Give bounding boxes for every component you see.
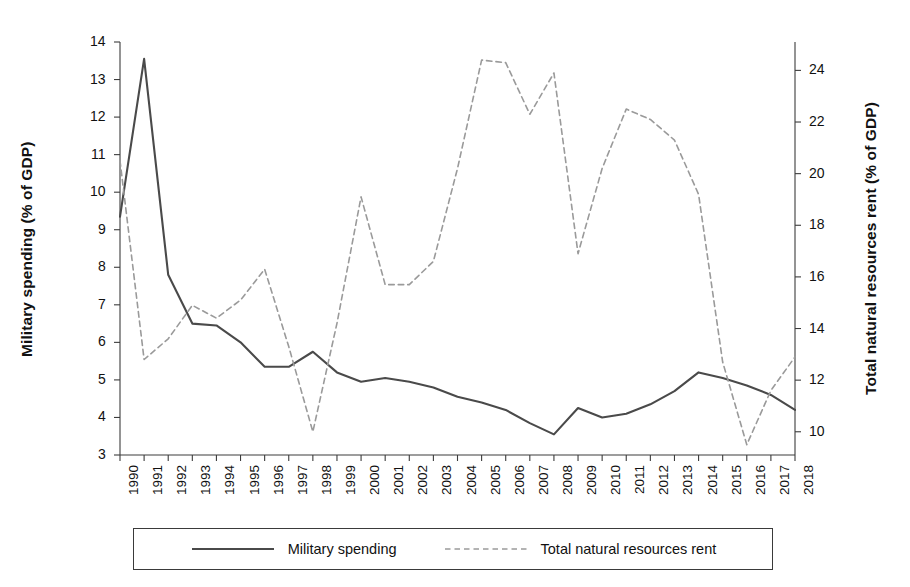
x-axis-tick-label: 2006: [512, 465, 527, 495]
x-axis-tick-label: 2005: [488, 465, 503, 495]
x-axis-tick-label: 2009: [584, 465, 599, 495]
legend-label: Total natural resources rent: [541, 541, 717, 557]
y-axis-left-tick-label: 9: [98, 221, 106, 237]
x-axis-tick-label: 1998: [319, 465, 334, 495]
legend-entry-2[interactable]: Total natural resources rent: [443, 541, 717, 557]
y-axis-left-tick-label: 4: [98, 408, 106, 424]
x-axis-tick-label: 2018: [801, 465, 816, 495]
y-axis-right-tick-label: 10: [809, 423, 825, 439]
x-axis-tick-label: 1994: [222, 465, 237, 495]
x-axis-tick-label: 1993: [198, 465, 213, 495]
x-axis-tick-label: 2001: [391, 465, 406, 495]
y-axis-right-tick-label: 22: [809, 113, 825, 129]
series-line-1: [120, 59, 795, 434]
x-axis-tick-label: 2015: [729, 465, 744, 495]
y-axis-right-tick-label: 12: [809, 371, 825, 387]
x-axis-tick-label: 1997: [295, 465, 310, 495]
chart-legend: Military spendingTotal natural resources…: [133, 528, 773, 570]
y-axis-right-title: Total natural resources rent (% of GDP): [862, 102, 880, 395]
x-axis-tick-label: 2003: [439, 465, 454, 495]
x-axis-tick-label: 2017: [777, 465, 792, 495]
y-axis-right-tick-label: 14: [809, 320, 825, 336]
y-axis-left-tick-label: 6: [98, 333, 106, 349]
y-axis-left-tick-label: 8: [98, 258, 106, 274]
y-axis-right-tick-label: 20: [809, 165, 825, 181]
x-axis-tick-label: 1999: [343, 465, 358, 495]
y-axis-left-tick-label: 13: [90, 71, 106, 87]
y-axis-left-tick-label: 3: [98, 446, 106, 462]
x-axis-tick-label: 2002: [415, 465, 430, 495]
y-axis-right-tick-label: 16: [809, 268, 825, 284]
plot-area: [0, 0, 910, 587]
legend-entry-1[interactable]: Military spending: [190, 541, 397, 557]
x-axis-tick-label: 2000: [367, 465, 382, 495]
y-axis-left-tick-label: 10: [90, 183, 106, 199]
x-axis-tick-label: 2013: [680, 465, 695, 495]
legend-label: Military spending: [288, 541, 397, 557]
x-axis-tick-label: 2007: [536, 465, 551, 495]
legend-swatch-solid-line-icon: [190, 543, 276, 555]
x-axis-tick-label: 2004: [464, 465, 479, 495]
y-axis-left-tick-label: 5: [98, 371, 106, 387]
chart-figure: Military spending (% of GDP) Total natur…: [0, 0, 910, 587]
y-axis-left-tick-label: 11: [91, 146, 106, 162]
x-axis-tick-label: 2011: [632, 465, 647, 494]
legend-swatch-dashed-line-icon: [443, 543, 529, 555]
y-axis-left-tick-label: 12: [90, 108, 106, 124]
x-axis-tick-label: 2016: [753, 465, 768, 495]
y-axis-left-tick-label: 14: [90, 33, 106, 49]
x-axis-tick-label: 1990: [126, 465, 141, 495]
y-axis-left-title: Military spending (% of GDP): [18, 141, 36, 357]
series-line-2: [120, 60, 795, 445]
x-axis-tick-label: 1991: [150, 465, 165, 495]
x-axis-tick-label: 1995: [247, 465, 262, 495]
x-axis-tick-label: 1996: [271, 465, 286, 495]
x-axis-tick-label: 2012: [656, 465, 671, 495]
x-axis-tick-label: 1992: [174, 465, 189, 495]
y-axis-right-tick-label: 18: [809, 216, 825, 232]
x-axis-tick-label: 2008: [560, 465, 575, 495]
x-axis-tick-label: 2014: [705, 465, 720, 495]
y-axis-left-tick-label: 7: [98, 296, 106, 312]
y-axis-right-tick-label: 24: [809, 61, 825, 77]
x-axis-tick-label: 2010: [608, 465, 623, 495]
